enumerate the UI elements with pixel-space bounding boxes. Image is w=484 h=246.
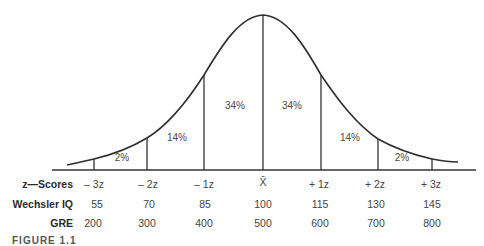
row-label-gre: GRE [50, 217, 73, 229]
z-score-cell: X̄ [259, 176, 266, 188]
row-label-wechsler-iq: Wechsler IQ [13, 198, 74, 210]
segment-label-plus2-plus3: 2% [395, 152, 409, 163]
figure-caption: FIGURE 1.1 [12, 235, 76, 246]
segment-label-plus1-plus2: 14% [340, 132, 360, 143]
segment-label-minus2-minus1: 14% [167, 132, 187, 143]
z-score-cell: – 2z [138, 178, 158, 190]
wechsler-iq-cell: 145 [423, 198, 441, 210]
gre-cell: 700 [367, 217, 385, 229]
segment-label-mean-plus1: 34% [282, 100, 302, 111]
row-label-z-scores: z—Scores [22, 178, 73, 190]
gre-cell: 800 [423, 217, 441, 229]
wechsler-iq-cell: 85 [199, 198, 211, 210]
z-score-cell: + 1z [309, 178, 329, 190]
wechsler-iq-cell: 130 [367, 198, 385, 210]
z-score-cell: + 2z [365, 178, 385, 190]
z-score-cell: – 1z [194, 178, 214, 190]
segment-label-minus3-minus2: 2% [115, 152, 129, 163]
wechsler-iq-cell: 115 [312, 198, 329, 210]
gre-cell: 500 [254, 217, 272, 229]
gre-cell: 400 [195, 217, 213, 229]
wechsler-iq-cell: 70 [143, 198, 155, 210]
gre-cell: 600 [311, 217, 329, 229]
wechsler-iq-cell: 55 [91, 198, 103, 210]
segment-label-minus1-mean: 34% [225, 100, 245, 111]
gre-cell: 300 [138, 217, 156, 229]
gre-cell: 200 [84, 217, 102, 229]
wechsler-iq-cell: 100 [254, 198, 272, 210]
z-score-cell: – 3z [84, 178, 104, 190]
z-score-cell: + 3z [421, 178, 441, 190]
